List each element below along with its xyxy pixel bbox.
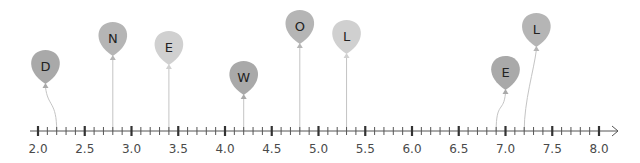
balloon-l: L [522,13,551,51]
balloon-strings [45,47,536,131]
tick-label: 7.0 [496,142,515,156]
tick-label: 3.5 [169,142,188,156]
tick-label: 4.0 [215,142,234,156]
balloon-knot [42,83,48,88]
balloon-o: O [285,10,314,48]
balloon-string [524,50,536,131]
balloon-letter: L [533,22,541,37]
balloon-letter: N [108,31,118,46]
balloon-w: W [229,61,258,99]
tick-label: 5.0 [309,142,328,156]
number-line-diagram: 2.02.53.03.54.04.55.05.56.06.57.07.58.0 … [0,0,640,163]
balloon-knot [297,43,303,48]
balloon-letter: O [295,19,305,34]
balloon-knot [503,89,509,94]
tick-label: 6.5 [449,142,468,156]
balloon-string [45,87,56,131]
tick-label: 6.0 [402,142,421,156]
tick-label: 4.5 [262,142,281,156]
tick-label: 2.5 [75,142,94,156]
tick-label: 3.0 [122,142,141,156]
balloon-string [496,93,505,131]
balloon-knot [344,53,350,58]
balloon-knot [166,64,172,69]
balloon-letter: E [501,65,509,80]
balloon-letter: W [237,70,250,85]
tick-label: 5.5 [356,142,375,156]
tick-label: 7.5 [543,142,562,156]
number-line-axis: 2.02.53.03.54.04.55.05.56.06.57.07.58.0 [28,126,618,156]
balloon-n: N [98,22,127,60]
balloon-knot [241,94,247,99]
balloon-knot [533,46,539,51]
balloon-d: D [31,50,60,88]
tick-label: 8.0 [589,142,608,156]
balloon-l: L [332,20,361,58]
balloons: DNEWOLEL [31,10,551,99]
balloon-knot [110,55,116,60]
balloon-letter: L [343,29,351,44]
balloon-letter: D [40,59,50,74]
balloon-e: E [155,31,184,69]
balloon-e: E [491,56,520,94]
balloon-letter: E [165,40,173,55]
tick-label: 2.0 [28,142,47,156]
